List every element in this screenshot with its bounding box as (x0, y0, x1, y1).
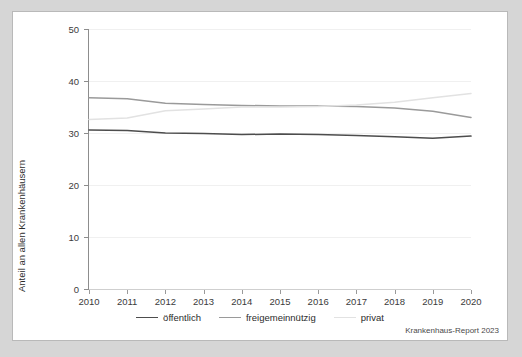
x-tick-mark-2010 (89, 290, 90, 294)
y-tick-label-10: 10 (68, 232, 79, 243)
legend-swatch-freigemeinnützig (219, 317, 241, 318)
y-tick-label-20: 20 (68, 180, 79, 191)
legend-item-freigemeinnützig[interactable]: freigemeinnützig (219, 312, 316, 323)
series-line-privat (89, 93, 471, 119)
x-tick-mark-2017 (356, 290, 357, 294)
x-tick-label-2020: 2020 (460, 296, 481, 307)
legend-label-privat: privat (361, 312, 384, 323)
x-tick-mark-2020 (471, 290, 472, 294)
x-tick-label-2012: 2012 (155, 296, 176, 307)
x-tick-label-2013: 2013 (193, 296, 214, 307)
y-tick-label-50: 50 (68, 24, 79, 35)
x-tick-label-2010: 2010 (78, 296, 99, 307)
x-tick-mark-2012 (165, 290, 166, 294)
y-tick-label-40: 40 (68, 76, 79, 87)
chart-figure: Anteil an allen Krankenhäusern 010203040… (12, 11, 508, 341)
y-tick-mark-30 (84, 133, 88, 134)
y-tick-mark-10 (84, 237, 88, 238)
x-tick-mark-2014 (242, 290, 243, 294)
series-line-öffentlich (89, 130, 471, 138)
y-tick-mark-0 (84, 289, 88, 290)
y-tick-mark-40 (84, 81, 88, 82)
x-tick-label-2015: 2015 (269, 296, 290, 307)
x-tick-mark-2015 (280, 290, 281, 294)
x-tick-mark-2018 (395, 290, 396, 294)
x-tick-label-2011: 2011 (117, 296, 137, 307)
x-tick-label-2018: 2018 (384, 296, 405, 307)
legend-item-öffentlich[interactable]: öffentlich (136, 312, 201, 323)
x-tick-mark-2011 (127, 290, 128, 294)
y-tick-mark-20 (84, 185, 88, 186)
x-tick-label-2019: 2019 (422, 296, 443, 307)
legend-label-öffentlich: öffentlich (163, 312, 201, 323)
legend-label-freigemeinnützig: freigemeinnützig (246, 312, 316, 323)
y-tick-label-30: 30 (68, 128, 79, 139)
source-note: Krankenhaus-Report 2023 (405, 326, 499, 335)
series-lines (89, 29, 471, 289)
x-tick-mark-2019 (433, 290, 434, 294)
y-axis-tick-labels: 01020304050 (13, 12, 79, 342)
legend-item-privat[interactable]: privat (334, 312, 384, 323)
legend-swatch-öffentlich (136, 317, 158, 318)
y-tick-label-0: 0 (74, 284, 79, 295)
x-tick-label-2014: 2014 (231, 296, 252, 307)
plot-area (89, 29, 471, 289)
x-tick-label-2016: 2016 (308, 296, 329, 307)
legend-swatch-privat (334, 317, 356, 318)
x-tick-mark-2016 (318, 290, 319, 294)
x-tick-mark-2013 (204, 290, 205, 294)
x-tick-label-2017: 2017 (346, 296, 367, 307)
y-tick-mark-50 (84, 29, 88, 30)
chart-legend: öffentlichfreigemeinnützigprivat (13, 312, 507, 323)
